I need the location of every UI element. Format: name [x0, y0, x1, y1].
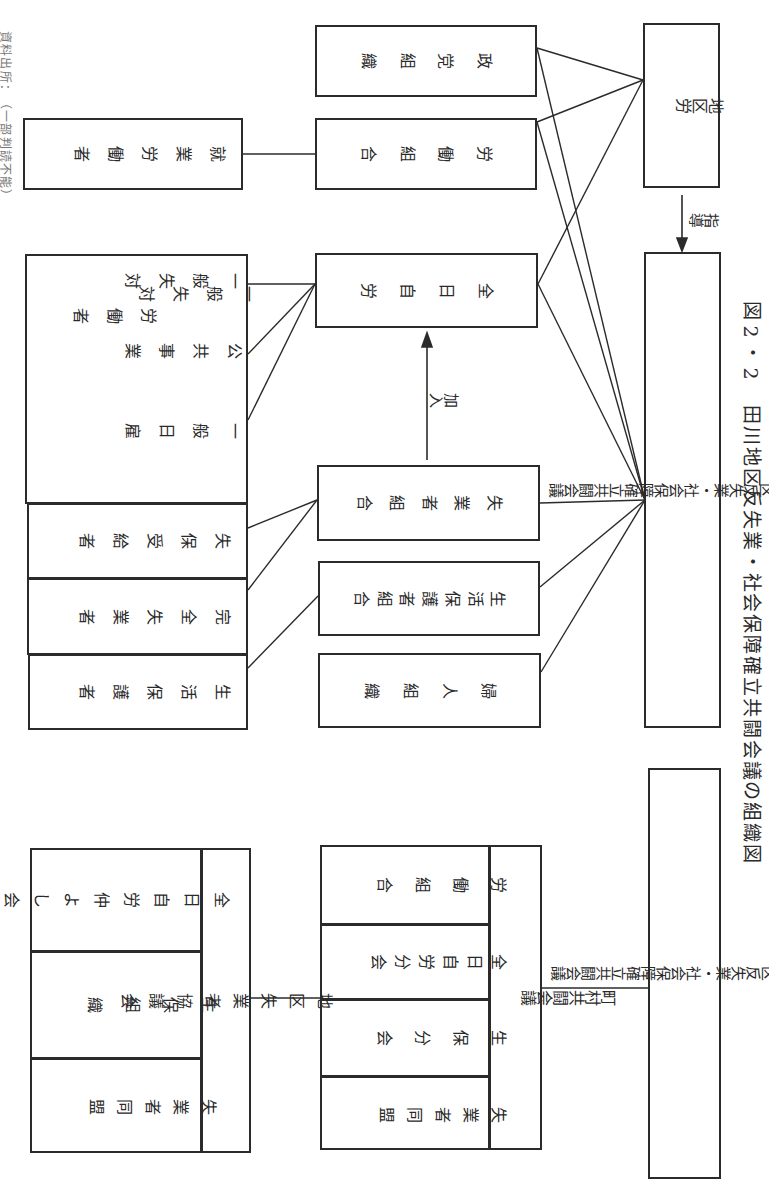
box-seikatsu-hogosha: 生活保護者 — [28, 654, 248, 730]
label-fujin: 婦人組織 — [320, 655, 539, 726]
label-choson-seiho: 生保分会 — [322, 1000, 524, 1075]
box-seikatsu-hogosha-kumiai: 生活保護者組合 — [318, 561, 540, 636]
box-ippan-shittai: 一般失対 公共事業 一般失対 一般日雇 労働者 — [25, 254, 248, 504]
label-main-council: 田川地区反失業・社会保障確立共闘会議 — [646, 254, 719, 726]
label-shugyo-rodosha: 就業労働者 — [25, 120, 241, 188]
group-choson-kyoto: 町村共闘会議 労働組合 全日自労分会 生保分会 失業者同盟 — [320, 845, 542, 1150]
box-main-council-2: 田川地区反失業・社会保障確立共闘会議 — [648, 768, 721, 1179]
label-choson-shitsugyosha-domei: 失業者同盟 — [322, 1077, 524, 1152]
label-rodosha: 労働者 — [42, 301, 272, 331]
label-seikatsu-hogosha-kumiai: 生活保護者組合 — [320, 563, 538, 634]
box-chikuro: 地区労 — [643, 23, 720, 188]
label-rodo-kumiai: 労働組合 — [317, 120, 535, 188]
arrow-label-shido: 指導 — [688, 200, 718, 240]
label-chiku-shitsugyosha-domei: 失業者同盟 — [32, 1059, 232, 1155]
label-choson-zennichi: 全日自労分会 — [322, 925, 524, 998]
label-chiku-seiho: 生保組織 — [32, 952, 232, 1057]
box-main-council: 田川地区反失業・社会保障確立共闘会議 — [644, 252, 721, 728]
label-seikatsu-hogosha: 生活保護者 — [30, 656, 246, 728]
label-koukyo-jigyo: 公共事業 — [42, 336, 242, 366]
label-chikuro: 地区労 — [645, 25, 718, 186]
figure-title: 図2・2 田川地区反失業・社会保障確立共闘会議の組織図 — [736, 300, 766, 1080]
box-rodo-kumiai: 労働組合 — [315, 118, 537, 190]
group-chiku-shitsugyosha: 地区失業者協議会 全日自労仲よし会 生保組織 失業者同盟 — [30, 848, 251, 1153]
label-seito: 政党組織 — [317, 27, 535, 95]
label-kanzen-shitsugyosha: 完全失業者 — [29, 580, 246, 653]
label-ippan-hiyatoi: 一般日雇 — [42, 416, 242, 446]
box-shitsugyosha-kumiai: 失業者組合 — [317, 465, 540, 541]
box-shugyo-rodosha: 就業労働者 — [23, 118, 243, 190]
label-shippo-jukyusha: 失保受給者 — [29, 505, 246, 577]
label-ippan-shittai: 一般失対 — [42, 266, 242, 296]
box-kanzen-shitsugyosha: 完全失業者 — [27, 578, 248, 655]
label-choson-rodo-kumiai: 労働組合 — [322, 847, 524, 923]
box-shippo-jukyusha: 失保受給者 — [27, 503, 248, 579]
box-seito: 政党組織 — [315, 25, 537, 97]
arrow-label-kanyu: 加入 — [428, 380, 458, 420]
label-shitsugyosha-kumiai: 失業者組合 — [319, 467, 538, 539]
label-chiku-zennichi: 全日自労仲よし会 — [32, 850, 200, 950]
label-zennichi-jiro: 全日自労 — [317, 255, 536, 326]
label-main-council-2: 田川地区反失業・社会保障確立共闘会議 — [650, 770, 719, 1177]
source-note: 資料出所：（一部判読不能） — [0, 30, 14, 390]
box-zennichi-jiro: 全日自労 — [315, 253, 538, 328]
box-fujin: 婦人組織 — [318, 653, 541, 728]
